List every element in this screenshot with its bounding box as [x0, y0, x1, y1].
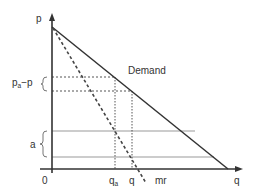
y-axis-arrow-icon [49, 13, 55, 21]
mr-label: mr [155, 175, 167, 186]
area-label: a [30, 139, 36, 150]
qa-tick-label-sub: a [115, 180, 119, 187]
x-axis-arrow-icon [235, 166, 243, 172]
price-gap-label: pa−p [12, 77, 33, 89]
mr-curve [53, 28, 146, 183]
area-bracket-icon [40, 131, 47, 157]
price-gap-bracket-icon [41, 77, 47, 91]
demand-curve [52, 27, 228, 169]
origin-label: 0 [42, 175, 48, 186]
q-tick-label: q [129, 175, 135, 186]
price-gap-label-tail: −p [21, 77, 33, 88]
economics-diagram: p q 0 Demand mr pa−p a qa q [0, 0, 255, 194]
x-axis-label: q [234, 175, 240, 186]
demand-label: Demand [128, 65, 166, 76]
qa-tick-label: qa [109, 175, 119, 187]
y-axis-label: p [36, 13, 42, 24]
